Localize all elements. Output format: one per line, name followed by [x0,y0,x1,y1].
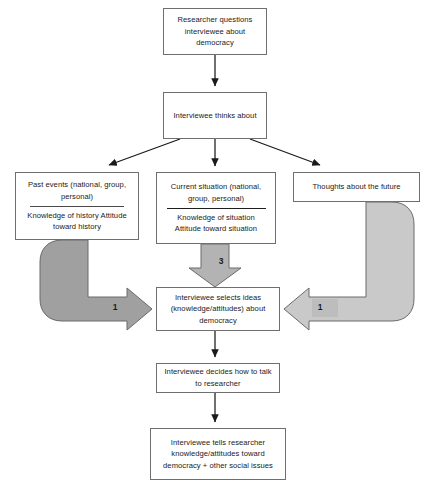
node-past-events: Past events (national, group, personal) … [15,172,139,240]
node-past-events-title: Past events (national, group, personal) [20,179,134,204]
node-researcher-questions: Researcher questions interviewee about d… [163,8,267,55]
edge-thinks-to-future [250,139,320,165]
node-thoughts-future: Thoughts about the future [293,172,420,202]
block-arrow-left-label: 1 [109,303,121,312]
node-researcher-questions-label: Researcher questions interviewee about d… [168,14,262,49]
block-arrow-right [284,202,414,330]
node-past-events-detail: Knowledge of history Attitude toward his… [20,208,134,233]
node-past-events-divider [30,206,123,207]
node-current-situation-title: Current situation (national, group, pers… [161,181,271,206]
node-interviewee-selects-ideas: Interviewee selects ideas (knowledge/att… [156,287,280,331]
node-interviewee-decides-label: Interviewee decides how to talk to resea… [161,366,275,389]
node-interviewee-tells-label: Interviewee tells researcher knowledge/a… [155,437,281,472]
node-interviewee-selects-ideas-label: Interviewee selects ideas (knowledge/att… [161,292,275,327]
node-interviewee-thinks-label: Interviewee thinks about [168,110,262,122]
block-arrow-left [40,240,152,330]
node-interviewee-decides: Interviewee decides how to talk to resea… [156,363,280,393]
connector-layer [0,0,428,500]
node-current-situation-divider [167,208,266,209]
node-current-situation: Current situation (national, group, pers… [156,172,276,244]
flowchart-diagram: Researcher questions interviewee about d… [0,0,428,500]
node-thoughts-future-label: Thoughts about the future [298,181,415,193]
block-arrow-middle-label: 3 [215,257,227,266]
edge-thinks-to-past [109,139,180,165]
node-current-situation-detail: Knowledge of situation Attitude toward s… [161,210,271,235]
block-arrow-middle [189,244,241,287]
node-interviewee-thinks: Interviewee thinks about [163,92,267,139]
node-interviewee-tells: Interviewee tells researcher knowledge/a… [150,428,286,480]
block-arrow-right-label: 1 [314,303,326,312]
